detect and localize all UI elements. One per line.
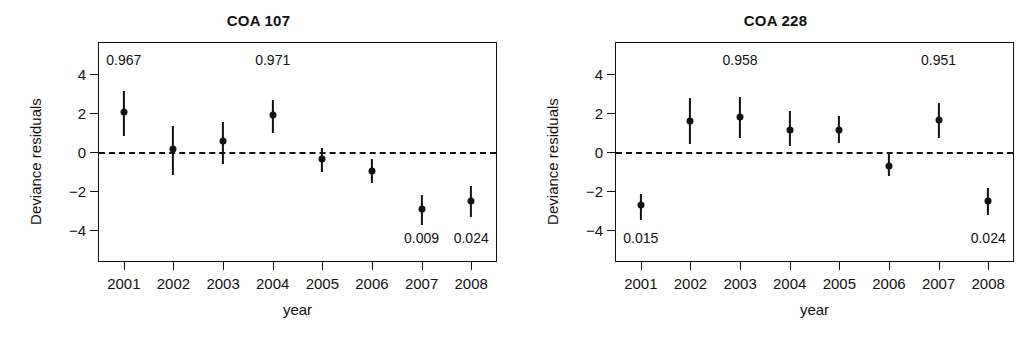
data-point: [418, 206, 425, 213]
y-axis-tick: [607, 230, 616, 231]
x-axis-tick: [740, 261, 741, 270]
p-value-annotation: 0.958: [723, 52, 758, 68]
x-axis-tick-label: 2003: [206, 275, 239, 292]
data-point: [985, 197, 992, 204]
data-point: [368, 168, 375, 175]
x-axis-tick-label: 2006: [872, 275, 905, 292]
plot-area: Deviance residuals year 420−2−4200120022…: [98, 42, 497, 262]
y-axis-tick-label: 4: [595, 66, 603, 83]
y-axis-tick: [607, 191, 616, 192]
y-axis-tick: [90, 74, 99, 75]
x-axis-tick-label: 2001: [624, 275, 657, 292]
y-axis-tick-label: 2: [595, 105, 603, 122]
p-value-annotation: 0.024: [454, 230, 489, 246]
y-axis-tick: [607, 152, 616, 153]
data-point: [935, 116, 942, 123]
p-value-annotation: 0.967: [106, 52, 141, 68]
x-axis-tick: [422, 261, 423, 270]
p-value-annotation: 0.971: [255, 52, 290, 68]
data-point: [885, 162, 892, 169]
zero-reference-line: [99, 152, 496, 154]
y-axis-tick-label: 2: [78, 105, 86, 122]
data-point: [269, 112, 276, 119]
y-axis-tick-label: −2: [586, 182, 603, 199]
data-point: [220, 138, 227, 145]
data-point: [687, 117, 694, 124]
y-axis-tick-label: 4: [78, 66, 86, 83]
x-axis-tick: [988, 261, 989, 270]
panel-title: COA 228: [517, 12, 1034, 29]
x-axis-tick: [939, 261, 940, 270]
y-axis-tick-label: −4: [69, 221, 86, 238]
x-axis-tick: [322, 261, 323, 270]
y-axis-tick: [90, 191, 99, 192]
y-axis-tick-label: 0: [595, 144, 603, 161]
x-axis-tick-label: 2005: [306, 275, 339, 292]
y-axis-tick: [90, 113, 99, 114]
x-axis-tick: [273, 261, 274, 270]
data-point: [836, 126, 843, 133]
panel-title: COA 107: [0, 12, 517, 29]
panel-coa-107: COA 107 Deviance residuals year 420−2−42…: [0, 0, 517, 342]
x-axis-tick-label: 2006: [355, 275, 388, 292]
data-point: [637, 201, 644, 208]
x-axis-tick-label: 2001: [107, 275, 140, 292]
y-axis-label: Deviance residuals: [544, 62, 561, 262]
data-point: [786, 126, 793, 133]
x-axis-tick-label: 2007: [405, 275, 438, 292]
x-axis-tick: [839, 261, 840, 270]
p-value-annotation: 0.951: [921, 52, 956, 68]
x-axis-tick-label: 2004: [773, 275, 806, 292]
y-axis-tick-label: −4: [586, 221, 603, 238]
x-axis-tick-label: 2003: [723, 275, 756, 292]
p-value-annotation: 0.024: [971, 230, 1006, 246]
x-axis-tick-label: 2005: [823, 275, 856, 292]
x-axis-tick: [471, 261, 472, 270]
x-axis-tick: [124, 261, 125, 270]
y-axis-tick-label: 0: [78, 144, 86, 161]
y-axis-tick: [90, 152, 99, 153]
x-axis-tick: [690, 261, 691, 270]
x-axis-tick-label: 2004: [256, 275, 289, 292]
x-axis-tick: [790, 261, 791, 270]
data-point: [170, 146, 177, 153]
data-point: [120, 109, 127, 116]
data-point: [468, 197, 475, 204]
p-value-annotation: 0.009: [404, 230, 439, 246]
figure-deviance-residuals: COA 107 Deviance residuals year 420−2−42…: [0, 0, 1034, 342]
data-point: [737, 113, 744, 120]
x-axis-tick-label: 2002: [674, 275, 707, 292]
x-axis-label: year: [616, 301, 1013, 318]
y-axis-tick-label: −2: [69, 182, 86, 199]
x-axis-tick-label: 2008: [455, 275, 488, 292]
x-axis-tick: [173, 261, 174, 270]
y-axis-tick: [90, 230, 99, 231]
panel-coa-228: COA 228 Deviance residuals year 420−2−42…: [517, 0, 1034, 342]
x-axis-tick: [223, 261, 224, 270]
data-point: [319, 155, 326, 162]
x-axis-tick: [889, 261, 890, 270]
y-axis-tick: [607, 113, 616, 114]
x-axis-tick-label: 2007: [922, 275, 955, 292]
zero-reference-line: [616, 152, 1013, 154]
p-value-annotation: 0.015: [623, 230, 658, 246]
x-axis-tick-label: 2002: [157, 275, 190, 292]
x-axis-tick: [641, 261, 642, 270]
x-axis-tick: [372, 261, 373, 270]
x-axis-tick-label: 2008: [972, 275, 1005, 292]
plot-area: Deviance residuals year 420−2−4200120022…: [615, 42, 1014, 262]
y-axis-label: Deviance residuals: [27, 62, 44, 262]
x-axis-label: year: [99, 301, 496, 318]
y-axis-tick: [607, 74, 616, 75]
